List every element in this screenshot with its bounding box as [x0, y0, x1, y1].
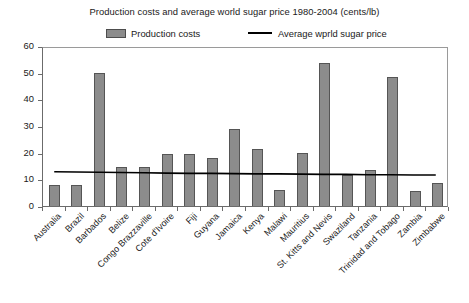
legend-label-sugar-price: Average wprld sugar price: [278, 28, 387, 39]
legend-bar-swatch-icon: [106, 29, 126, 38]
bar: [274, 190, 285, 206]
bar: [432, 183, 443, 206]
bar: [184, 154, 195, 206]
bar: [297, 153, 308, 206]
y-axis-tick-label: 50: [24, 67, 34, 78]
legend-line-swatch-icon: [248, 32, 272, 34]
y-axis-tick-label: 40: [24, 93, 34, 104]
bar: [342, 175, 353, 206]
bar: [94, 73, 105, 206]
y-axis-tick-label: 20: [24, 147, 34, 158]
legend-item-production-costs: Production costs: [106, 25, 200, 41]
chart-title: Production costs and average world sugar…: [0, 6, 469, 17]
bar: [365, 170, 376, 206]
bar: [116, 167, 127, 206]
y-axis-tick-label: 30: [24, 120, 34, 131]
bar: [207, 158, 218, 206]
bar: [229, 129, 240, 206]
y-axis: 0102030405060: [0, 47, 42, 207]
bar: [252, 149, 263, 206]
x-axis-labels: AustraliaBrazilBarbadosBelizeCongo Brazz…: [0, 207, 469, 303]
bar: [49, 185, 60, 206]
plot-area: [43, 48, 447, 206]
plot-frame: [42, 47, 448, 207]
bar: [387, 77, 398, 206]
trend-line-path: [54, 172, 436, 175]
bar: [319, 63, 330, 206]
bar: [139, 167, 150, 206]
bar: [71, 185, 82, 206]
x-axis-label: Australia: [31, 211, 63, 243]
legend-label-production-costs: Production costs: [131, 28, 200, 39]
legend-item-sugar-price: Average wprld sugar price: [248, 25, 387, 41]
chart-figure: Production costs and average world sugar…: [0, 0, 469, 303]
y-axis-tick-label: 10: [24, 173, 34, 184]
bar: [162, 154, 173, 206]
y-axis-tick-label: 60: [24, 40, 34, 51]
x-axis-label: Fiji: [183, 211, 198, 226]
bar: [410, 191, 421, 206]
chart-legend: Production costs Average wprld sugar pri…: [0, 25, 469, 41]
x-axis-label: Kenya: [241, 211, 266, 236]
